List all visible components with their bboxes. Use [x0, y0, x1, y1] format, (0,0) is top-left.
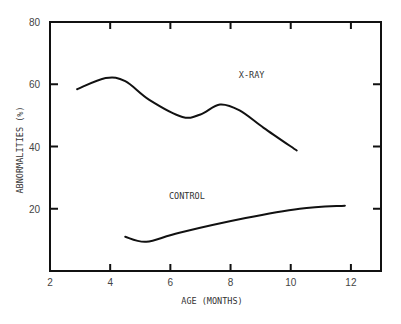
line-chart: 2468101220406080 X-RAYCONTROL AGE (MONTH…: [0, 0, 401, 324]
plot-border: [50, 22, 381, 271]
series-label-control: CONTROL: [169, 191, 205, 201]
axis-ticks: [50, 22, 381, 271]
series-labels: X-RAYCONTROL: [169, 70, 264, 201]
x-tick-label: 10: [285, 277, 297, 288]
x-tick-label: 4: [107, 277, 113, 288]
y-tick-label: 40: [29, 142, 41, 153]
plot-frame: [50, 22, 381, 271]
x-axis-title: AGE (MONTHS): [181, 296, 242, 306]
series-line-control: [125, 206, 345, 242]
x-tick-label: 12: [345, 277, 357, 288]
series-line-x-ray: [77, 77, 297, 150]
x-tick-label: 2: [47, 277, 53, 288]
x-tick-label: 8: [228, 277, 234, 288]
y-tick-label: 80: [29, 17, 41, 28]
series-label-x-ray: X-RAY: [239, 70, 265, 80]
data-series: [77, 77, 345, 241]
x-tick-label: 6: [168, 277, 174, 288]
axis-tick-labels: 2468101220406080: [29, 17, 357, 288]
y-axis-title: ABNORMALITIES (%): [15, 107, 25, 194]
y-tick-label: 20: [29, 204, 41, 215]
y-tick-label: 60: [29, 79, 41, 90]
